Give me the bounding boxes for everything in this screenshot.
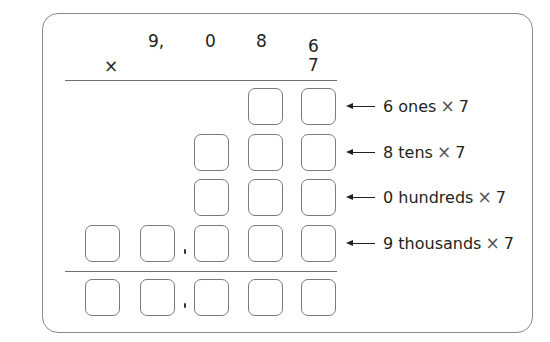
- thousands-comma: [184, 249, 186, 254]
- answer-box-tens[interactable]: [248, 134, 283, 171]
- answer-box-tens[interactable]: [248, 88, 283, 125]
- sum-box-ten-thousands[interactable]: [85, 279, 120, 316]
- sum-box-ones[interactable]: [301, 279, 336, 316]
- multiplicand-ones-digit: 6: [308, 38, 319, 55]
- answer-box-ones[interactable]: [301, 134, 336, 171]
- label-place: ones: [398, 97, 436, 116]
- answer-box-ones[interactable]: [301, 225, 336, 262]
- label-place: thousands: [398, 234, 481, 253]
- label-place: hundreds: [398, 188, 473, 207]
- label-factor: 7: [496, 188, 506, 207]
- multiply-operator: ×: [104, 58, 118, 75]
- sum-box-tens[interactable]: [248, 279, 283, 316]
- answer-box-tens[interactable]: [248, 225, 283, 262]
- label-digit: 6: [383, 97, 393, 116]
- multiplier-digit: 7: [308, 57, 319, 74]
- label-times: ×: [440, 96, 454, 116]
- arrow-left-icon: [346, 147, 375, 157]
- arrow-left-icon: [346, 101, 375, 111]
- label-digit: 8: [383, 143, 393, 162]
- sum-thousands-comma: [184, 303, 186, 308]
- answer-box-ones[interactable]: [301, 179, 336, 216]
- arrow-left-icon: [346, 238, 375, 248]
- label-times: ×: [477, 187, 491, 207]
- sum-box-thousands[interactable]: [140, 279, 175, 316]
- answer-box-tens[interactable]: [248, 179, 283, 216]
- multiplicand-hundreds-digit: 0: [205, 33, 216, 50]
- problem-divider-line: [65, 80, 337, 81]
- row-label-hundreds: 0 hundreds×7: [346, 187, 506, 207]
- answer-box-hundreds[interactable]: [194, 225, 229, 262]
- label-times: ×: [437, 142, 451, 162]
- multiplicand-thousands-digit: 9,: [148, 33, 164, 50]
- label-factor: 7: [455, 143, 465, 162]
- label-times: ×: [485, 233, 499, 253]
- answer-box-thousands[interactable]: [140, 225, 175, 262]
- sum-divider-line: [65, 271, 337, 272]
- label-digit: 9: [383, 234, 393, 253]
- label-factor: 7: [504, 234, 514, 253]
- label-factor: 7: [459, 97, 469, 116]
- answer-box-ten-thousands[interactable]: [85, 225, 120, 262]
- multiplicand-tens-digit: 8: [256, 33, 267, 50]
- row-label-tens: 8 tens×7: [346, 142, 465, 162]
- answer-box-hundreds[interactable]: [194, 179, 229, 216]
- row-label-thousands: 9 thousands×7: [346, 233, 514, 253]
- answer-box-hundreds[interactable]: [194, 134, 229, 171]
- sum-box-hundreds[interactable]: [194, 279, 229, 316]
- row-label-ones: 6 ones×7: [346, 96, 469, 116]
- label-digit: 0: [383, 188, 393, 207]
- label-place: tens: [398, 143, 433, 162]
- answer-box-ones[interactable]: [301, 88, 336, 125]
- arrow-left-icon: [346, 192, 375, 202]
